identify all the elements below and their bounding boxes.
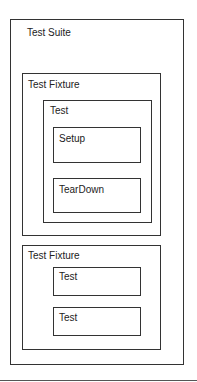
test-fixture-2-label: Test Fixture	[28, 251, 80, 261]
test-fixture-1-label: Test Fixture	[28, 80, 80, 90]
setup-label: Setup	[59, 134, 85, 144]
bottom-divider	[0, 380, 197, 381]
test-label: Test	[50, 106, 68, 116]
test-label-2b: Test	[59, 313, 77, 323]
test-suite-label: Test Suite	[27, 28, 71, 38]
teardown-label: TearDown	[59, 185, 104, 195]
test-label-2a: Test	[59, 272, 77, 282]
